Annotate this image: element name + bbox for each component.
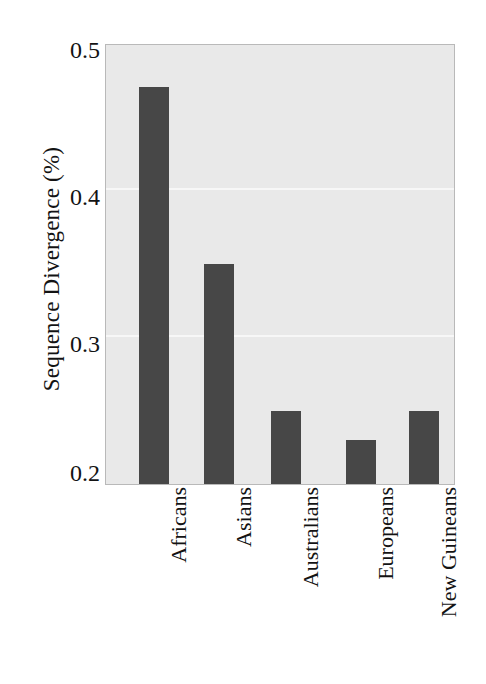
y-axis-tick-labels: 0.5 0.4 0.3 0.2 bbox=[40, 0, 100, 684]
y-tick-label-1: 0.4 bbox=[42, 185, 100, 209]
x-tick-label-australians: Australians bbox=[296, 487, 326, 677]
plot-area bbox=[105, 44, 455, 485]
x-tick-label-africans: Africans bbox=[164, 487, 194, 677]
x-tick-label-asians: Asians bbox=[229, 487, 259, 677]
bar-europeans bbox=[346, 440, 376, 484]
y-tick-label-3: 0.2 bbox=[42, 461, 100, 485]
bar-chart-figure: Sequence Divergence (%) 0.5 0.4 0.3 0.2 … bbox=[0, 0, 486, 684]
bar-australians bbox=[271, 411, 301, 485]
y-tick-label-2: 0.3 bbox=[42, 332, 100, 356]
bar-new-guineans bbox=[409, 411, 439, 485]
x-tick-label-europeans: Europeans bbox=[371, 487, 401, 677]
y-tick-label-0: 0.5 bbox=[42, 38, 100, 62]
bar-africans bbox=[139, 87, 169, 484]
x-tick-label-new-guineans: New Guineans bbox=[434, 487, 464, 677]
bar-asians bbox=[204, 264, 234, 485]
x-axis-tick-labels: AfricansAsiansAustraliansEuropeansNew Gu… bbox=[105, 487, 455, 684]
